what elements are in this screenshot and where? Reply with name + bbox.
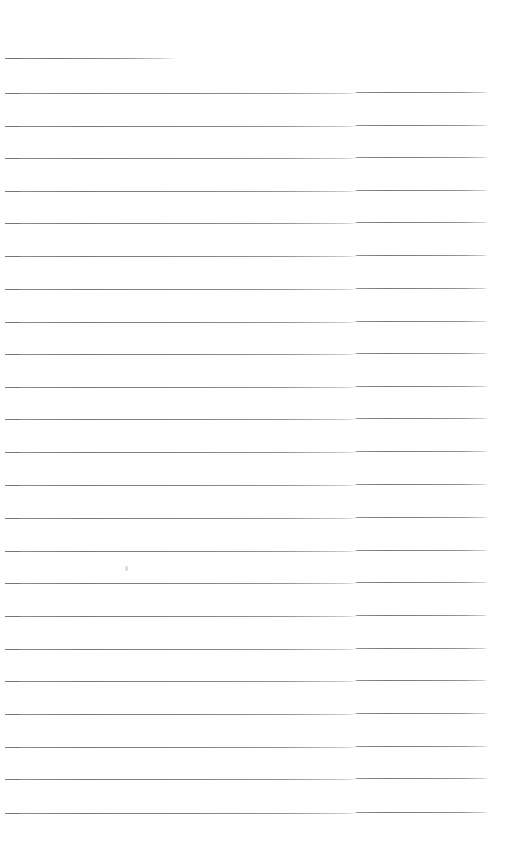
ruled-line — [0, 648, 515, 651]
ruled-line-segment-right — [355, 484, 487, 485]
ruled-line — [0, 288, 515, 291]
ruled-line — [0, 550, 515, 553]
ruled-line-segment-left — [5, 747, 355, 748]
ruled-line-segment-left — [5, 616, 355, 617]
ruled-line-segment-left — [5, 583, 355, 584]
ruled-line-segment-right — [355, 615, 487, 616]
ruled-line-segment-left — [5, 58, 175, 59]
ruled-line-segment-right — [355, 746, 487, 747]
ruled-line — [0, 57, 515, 60]
ruled-line-segment-right — [355, 582, 487, 583]
ruled-line-segment-right — [355, 451, 487, 452]
ruled-line-segment-left — [5, 354, 355, 355]
ruled-line — [0, 582, 515, 585]
ruled-line — [0, 255, 515, 258]
ruled-line — [0, 812, 515, 815]
ruled-line-segment-right — [355, 222, 487, 223]
ruled-line-segment-left — [5, 681, 355, 682]
ruled-line-segment-left — [5, 256, 355, 257]
ruled-line-segment-right — [355, 713, 487, 714]
ruled-line-segment-right — [355, 255, 487, 256]
ruled-line — [0, 190, 515, 193]
ruled-line — [0, 92, 515, 95]
ruled-line-segment-right — [355, 812, 487, 813]
ruled-line — [0, 353, 515, 356]
ruled-line-segment-right — [355, 386, 487, 387]
ruled-line-segment-left — [5, 126, 355, 127]
ruled-line-segment-right — [355, 353, 487, 354]
ruled-line-segment-left — [5, 649, 355, 650]
ruled-line — [0, 484, 515, 487]
ruled-line-segment-left — [5, 322, 355, 323]
ruled-line-segment-right — [355, 517, 487, 518]
ruled-line-segment-right — [355, 321, 487, 322]
ruled-line-segment-left — [5, 387, 355, 388]
ruled-line — [0, 222, 515, 225]
ruled-line-segment-right — [355, 288, 487, 289]
ruled-line-segment-left — [5, 452, 355, 453]
ruled-line — [0, 746, 515, 749]
ruled-line-segment-left — [5, 779, 355, 780]
ruled-line-segment-left — [5, 223, 355, 224]
ruled-line-segment-right — [355, 680, 487, 681]
ruled-line — [0, 615, 515, 618]
ruled-line-segment-right — [355, 778, 487, 779]
ruled-line-segment-left — [5, 551, 355, 552]
ruled-line-segment-left — [5, 419, 355, 420]
ruled-line-segment-left — [5, 485, 355, 486]
ruled-line — [0, 713, 515, 716]
ruled-line-segment-right — [355, 648, 487, 649]
ruled-line — [0, 517, 515, 520]
ruled-line-segment-left — [5, 714, 355, 715]
ruled-line-segment-left — [5, 813, 355, 814]
ruled-line — [0, 451, 515, 454]
ruled-line-segment-right — [355, 92, 487, 93]
ruled-line-segment-right — [355, 550, 487, 551]
ruled-line — [0, 157, 515, 160]
scan-speck-icon — [125, 566, 128, 571]
ruled-line — [0, 386, 515, 389]
ruled-line-segment-left — [5, 289, 355, 290]
ruled-line — [0, 778, 515, 781]
ruled-line-segment-left — [5, 93, 355, 94]
ruled-line-segment-left — [5, 518, 355, 519]
ruled-line-segment-right — [355, 125, 487, 126]
ruled-line-segment-right — [355, 418, 487, 419]
ruled-line — [0, 321, 515, 324]
ruled-line-segment-left — [5, 191, 355, 192]
ruled-line-segment-right — [355, 157, 487, 158]
ruled-line-segment-left — [5, 158, 355, 159]
ruled-line — [0, 418, 515, 421]
scanned-page — [0, 0, 515, 847]
ruled-line-segment-right — [355, 190, 487, 191]
ruled-line — [0, 125, 515, 128]
ruled-line — [0, 680, 515, 683]
